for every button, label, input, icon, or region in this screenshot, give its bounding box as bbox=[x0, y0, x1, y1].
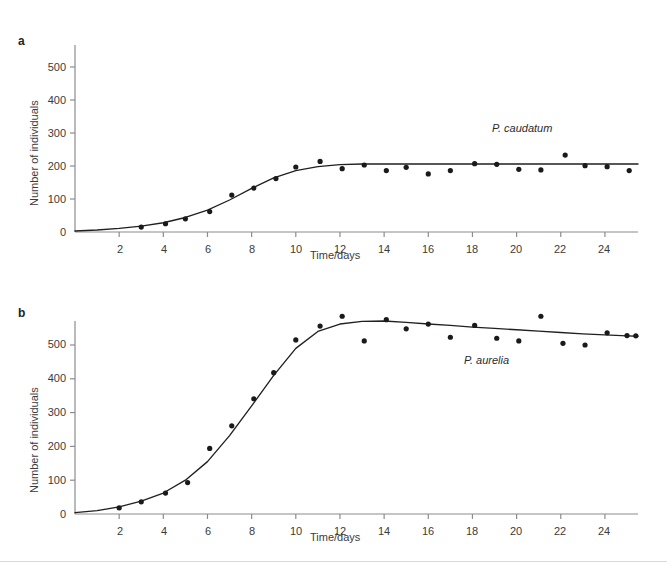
panel-a-plot bbox=[0, 0, 667, 281]
panel-a: a Number of individuals Time/days 0 100 … bbox=[0, 0, 667, 281]
panel-b: b Number of individuals Time/days 0 100 … bbox=[0, 281, 667, 562]
panel-b-plot bbox=[0, 281, 667, 562]
figure-population-growth: a Number of individuals Time/days 0 100 … bbox=[0, 0, 667, 562]
